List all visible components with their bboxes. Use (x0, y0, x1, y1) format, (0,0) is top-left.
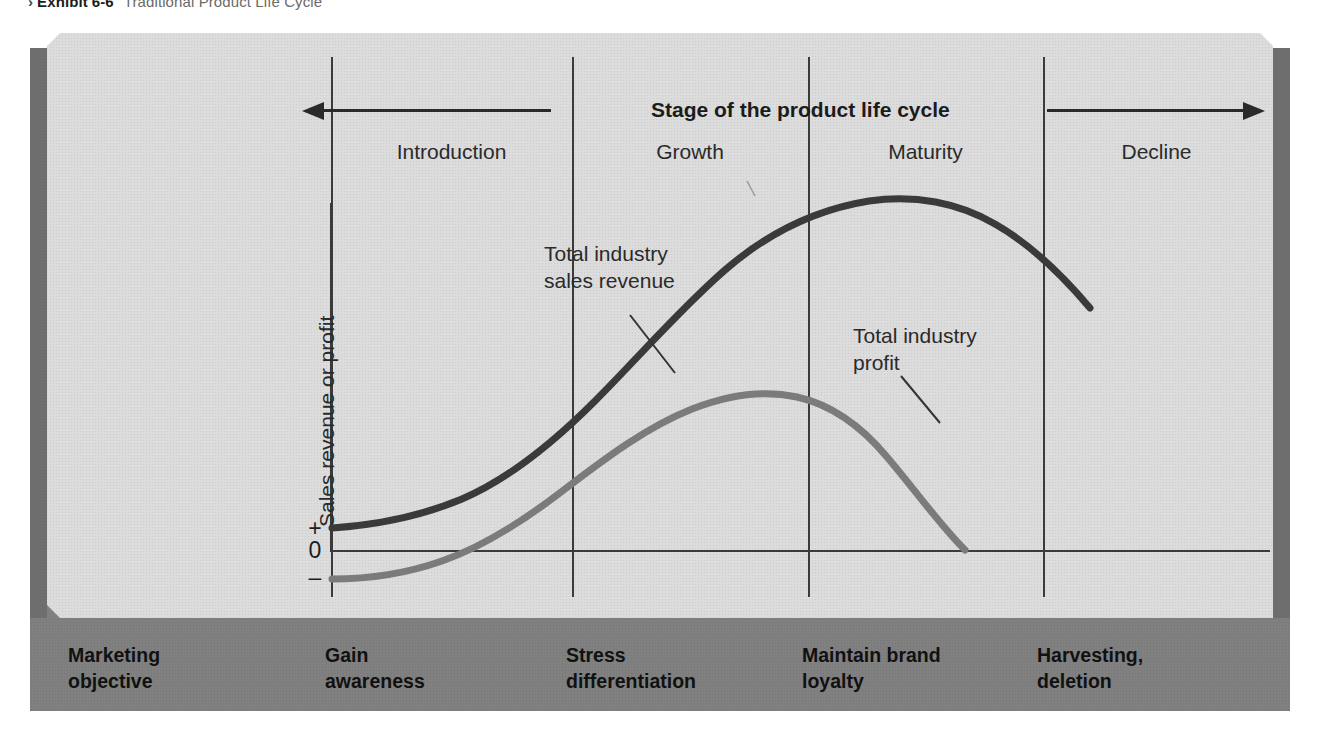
stage-label-growth: Growth (572, 140, 808, 164)
stage-divider-4 (1043, 57, 1045, 597)
stage-label-introduction: Introduction (331, 140, 572, 164)
footer-cell-line1: Harvesting, (1037, 642, 1143, 668)
footer-cell-line2: awareness (325, 668, 425, 694)
marketing-objective-band: Marketing objective Gain awareness Stres… (30, 618, 1290, 711)
stage-label-maturity: Maturity (808, 140, 1043, 164)
chart-plot-area: Stage of the product life cycle Introduc… (47, 33, 1273, 618)
footer-row-label-line1: Marketing (68, 642, 160, 668)
zero-baseline-axis (330, 550, 1270, 552)
footer-cell-line2: deletion (1037, 668, 1143, 694)
chart-x-axis-title: Stage of the product life cycle (651, 98, 950, 122)
footer-cell-stress-differentiation: Stress differentiation (566, 642, 696, 695)
footer-cell-line1: Gain (325, 642, 425, 668)
stage-divider-3 (808, 57, 810, 597)
footer-cell-line1: Stress (566, 642, 696, 668)
stage-label-decline: Decline (1043, 140, 1270, 164)
annotation-revenue-line2: sales revenue (544, 268, 675, 295)
annotation-profit-line2: profit (853, 350, 977, 377)
annotation-profit-line1: Total industry (853, 323, 977, 350)
figure-shadow-left (30, 48, 47, 711)
leader-line-revenue (630, 315, 675, 373)
figure-shadow-right (1273, 48, 1290, 711)
annotation-revenue-line1: Total industry (544, 241, 675, 268)
footer-cell-harvesting-deletion: Harvesting, deletion (1037, 642, 1143, 695)
annotation-total-industry-sales-revenue: Total industry sales revenue (544, 241, 675, 295)
y-tick-minus: – (305, 566, 325, 589)
panel-notch-top-right (1260, 33, 1273, 46)
x-axis-arrow-line-left (323, 109, 551, 112)
annotation-total-industry-profit: Total industry profit (853, 323, 977, 377)
footer-cell-gain-awareness: Gain awareness (325, 642, 425, 695)
footer-row-label-marketing-objective: Marketing objective (68, 642, 160, 695)
footer-cell-line2: loyalty (802, 668, 941, 694)
panel-notch-top-left (47, 33, 60, 46)
arrow-head-left-icon (302, 102, 324, 120)
x-axis-arrow-line-right (1047, 109, 1244, 112)
stray-mark (747, 181, 755, 196)
footer-cell-line1: Maintain brand (802, 642, 941, 668)
chart-y-axis-title: Sales revenue or profit (315, 316, 339, 527)
footer-cell-line2: differentiation (566, 668, 696, 694)
leader-line-profit (901, 376, 940, 423)
footer-row-label-line2: objective (68, 668, 160, 694)
arrow-head-right-icon (1243, 102, 1265, 120)
panel-notch-bottom-left (47, 605, 60, 618)
footer-cell-maintain-brand-loyalty: Maintain brand loyalty (802, 642, 941, 695)
product-life-cycle-figure: Stage of the product life cycle Introduc… (0, 0, 1321, 740)
y-tick-zero: 0 (305, 539, 325, 562)
stage-divider-2 (572, 57, 574, 597)
